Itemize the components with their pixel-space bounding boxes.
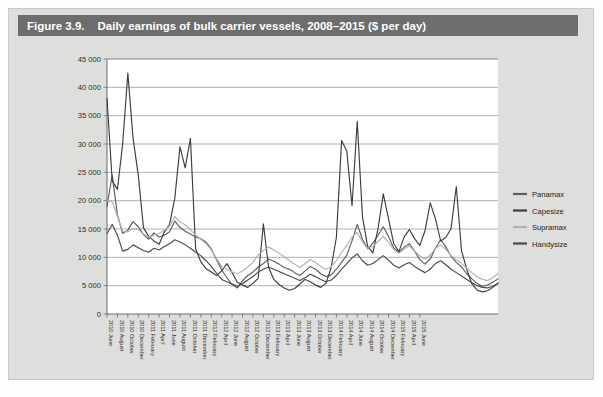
y-tick-label: 10 000	[78, 253, 101, 262]
x-tick-label: 2013 June	[296, 320, 302, 346]
x-tick-label: 2014 February	[338, 320, 344, 357]
x-tick-label: 2014 October	[379, 320, 385, 354]
legend-label-handysize: Handysize	[532, 240, 567, 249]
x-tick-label: 2011 June	[171, 320, 177, 346]
y-tick-label: 15 000	[78, 225, 101, 234]
x-tick-label: 2011 February	[150, 320, 156, 356]
x-axis: 2010 June2010 August2010 October2010 Dec…	[107, 314, 427, 360]
x-tick-label: 2013 December	[327, 320, 333, 360]
legend-label-capesize: Capesize	[532, 207, 564, 216]
x-tick-label: 2014 June	[358, 320, 364, 346]
x-tick-label: 2011 October	[192, 320, 198, 354]
x-tick-label: 2011 August	[181, 320, 187, 351]
y-tick-label: 25 000	[78, 168, 101, 177]
x-tick-label: 2015 April	[411, 320, 417, 345]
x-tick-label: 2014 August	[369, 320, 375, 352]
y-tick-label: 30 000	[78, 140, 101, 149]
x-tick-label: 2011 December	[202, 320, 208, 360]
legend-label-panamax: Panamax	[532, 190, 564, 199]
y-tick-label: 5 000	[82, 281, 101, 290]
x-tick-label: 2011 April	[160, 320, 166, 344]
x-tick-label: 2013 October	[317, 320, 323, 354]
x-tick-label: 2012 December	[265, 320, 271, 360]
x-tick-label: 2010 August	[119, 320, 125, 352]
x-tick-label: 2015 February	[400, 320, 406, 357]
x-tick-label: 2013 April	[285, 320, 291, 345]
x-tick-label: 2014 April	[348, 320, 354, 345]
x-tick-label: 2010 October	[129, 320, 135, 354]
y-tick-label: 45 000	[78, 55, 101, 64]
x-tick-label: 2012 October	[254, 320, 260, 354]
y-tick-label: 0	[97, 310, 101, 319]
x-tick-label: 2012 April	[223, 320, 229, 345]
x-tick-label: 2012 February	[212, 320, 218, 357]
chart-legend: PanamaxCapesizeSupramaxHandysize	[513, 190, 567, 249]
x-tick-label: 2010 December	[139, 320, 145, 360]
y-tick-label: 35 000	[78, 111, 101, 120]
x-tick-label: 2013 August	[306, 320, 312, 352]
figure-panel: Figure 3.9. Daily earnings of bulk carri…	[8, 8, 594, 380]
chart-container: 05 00010 00015 00020 00025 00030 00035 0…	[9, 9, 595, 381]
x-tick-label: 2010 June	[108, 320, 114, 346]
x-tick-label: 2013 February	[275, 320, 281, 357]
x-tick-label: 2012 June	[233, 320, 239, 346]
plot-area	[107, 59, 498, 314]
y-tick-label: 40 000	[78, 83, 101, 92]
legend-label-supramax: Supramax	[532, 223, 567, 232]
plot-background	[107, 59, 498, 314]
x-tick-label: 2012 August	[244, 320, 250, 352]
line-chart: 05 00010 00015 00020 00025 00030 00035 0…	[9, 9, 595, 381]
x-tick-label: 2015 June	[421, 320, 427, 346]
x-tick-label: 2014 December	[390, 320, 396, 360]
y-tick-label: 20 000	[78, 196, 101, 205]
